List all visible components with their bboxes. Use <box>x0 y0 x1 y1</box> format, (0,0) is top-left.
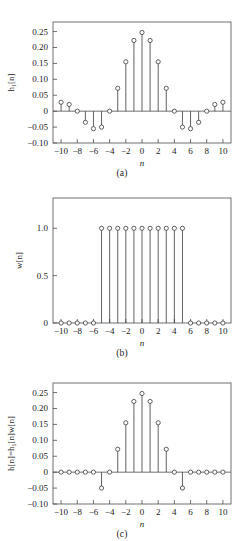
stem-marker <box>172 109 176 113</box>
x-tick-label: 10 <box>218 326 228 336</box>
stem-marker <box>83 470 87 474</box>
x-tick-label: −2 <box>121 507 131 517</box>
x-tick-label: 4 <box>172 146 177 156</box>
panel-caption-b: (b) <box>0 348 244 358</box>
stem-marker <box>164 447 168 451</box>
stem-marker <box>197 120 201 124</box>
stem-marker <box>148 226 152 230</box>
stem-marker <box>164 86 168 90</box>
stem-marker <box>116 226 120 230</box>
y-tick-label: 0 <box>44 467 49 477</box>
y-tick-label: 0.10 <box>32 74 48 84</box>
stem-plot-figure: −0.10−0.0500.050.100.150.200.25−10−8−6−4… <box>0 0 244 541</box>
stem-marker <box>156 421 160 425</box>
y-tick-label: 0 <box>44 318 49 328</box>
x-tick-label: 2 <box>156 507 161 517</box>
stem-marker <box>140 391 144 395</box>
stem-marker <box>197 470 201 474</box>
x-tick-label: 4 <box>172 326 177 336</box>
x-tick-label: −4 <box>105 146 115 156</box>
stem-marker <box>108 109 112 113</box>
stem-marker <box>83 321 87 325</box>
stem-marker <box>59 100 63 104</box>
stem-marker <box>205 109 209 113</box>
x-tick-label: −6 <box>89 146 99 156</box>
y-tick-label: 0.25 <box>32 388 48 398</box>
stem-marker <box>156 226 160 230</box>
y-tick-label: −0.10 <box>27 499 48 509</box>
stem-marker <box>205 470 209 474</box>
panel-caption-c: (c) <box>0 529 244 539</box>
stem-marker <box>59 321 63 325</box>
x-tick-label: 10 <box>218 507 228 517</box>
stem-marker <box>99 486 103 490</box>
stem-marker <box>75 321 79 325</box>
stem-marker <box>116 447 120 451</box>
x-tick-label: 2 <box>156 146 161 156</box>
x-tick-label: 0 <box>140 326 145 336</box>
stem-marker <box>221 470 225 474</box>
stem-marker <box>221 100 225 104</box>
y-axis-label: h₁[n] <box>6 73 16 91</box>
y-tick-label: 0.10 <box>32 435 48 445</box>
y-tick-label: 0.15 <box>32 419 48 429</box>
x-tick-label: 8 <box>204 507 209 517</box>
stem-marker <box>197 321 201 325</box>
x-tick-label: −10 <box>54 326 69 336</box>
panel-b: 00.51.0−10−8−6−4−20246810nw[n] <box>0 180 244 360</box>
y-tick-label: −0.10 <box>27 138 48 148</box>
stem-marker <box>83 120 87 124</box>
y-tick-label: 1.0 <box>37 223 49 233</box>
y-axis-label: w[n] <box>14 252 24 269</box>
stem-marker <box>180 125 184 129</box>
x-tick-label: −8 <box>72 326 82 336</box>
x-tick-label: 6 <box>188 326 193 336</box>
y-tick-label: −0.05 <box>27 483 48 493</box>
stem-marker <box>59 470 63 474</box>
x-tick-label: 6 <box>188 507 193 517</box>
x-tick-label: −8 <box>72 507 82 517</box>
x-tick-label: 2 <box>156 326 161 336</box>
y-tick-label: 0.20 <box>32 403 48 413</box>
x-tick-label: 4 <box>172 507 177 517</box>
y-tick-label: 0 <box>44 106 49 116</box>
stem-marker <box>148 38 152 42</box>
stem-marker <box>213 102 217 106</box>
stem-marker <box>221 321 225 325</box>
stem-marker <box>124 60 128 64</box>
x-tick-label: −6 <box>89 507 99 517</box>
y-axis-label: h[n]=h₁[n]w[n] <box>6 416 16 471</box>
stem-marker <box>188 470 192 474</box>
x-tick-label: −2 <box>121 326 131 336</box>
x-tick-label: −4 <box>105 507 115 517</box>
stem-marker <box>172 226 176 230</box>
stem-marker <box>132 226 136 230</box>
x-tick-label: 8 <box>204 326 209 336</box>
stem-marker <box>140 226 144 230</box>
x-tick-label: −10 <box>54 146 69 156</box>
x-tick-label: −2 <box>121 146 131 156</box>
stem-marker <box>108 470 112 474</box>
stem-marker <box>91 321 95 325</box>
panel-a: −0.10−0.0500.050.100.150.200.25−10−8−6−4… <box>0 0 244 180</box>
x-tick-label: −4 <box>105 326 115 336</box>
stem-marker <box>124 421 128 425</box>
y-tick-label: 0.05 <box>32 451 48 461</box>
stem-marker <box>140 30 144 34</box>
plot-a: −0.10−0.0500.050.100.150.200.25−10−8−6−4… <box>0 0 244 180</box>
stem-marker <box>132 38 136 42</box>
stem-marker <box>116 86 120 90</box>
stem-marker <box>75 470 79 474</box>
x-tick-label: 0 <box>140 507 145 517</box>
stem-marker <box>188 321 192 325</box>
x-tick-label: −10 <box>54 507 69 517</box>
x-tick-label: −6 <box>89 326 99 336</box>
stem-marker <box>75 109 79 113</box>
stem-marker <box>99 226 103 230</box>
stem-marker <box>132 399 136 403</box>
stem-marker <box>91 127 95 131</box>
panel-caption-a: (a) <box>0 168 244 178</box>
y-tick-label: −0.05 <box>27 122 48 132</box>
stem-marker <box>67 321 71 325</box>
stem-marker <box>108 226 112 230</box>
